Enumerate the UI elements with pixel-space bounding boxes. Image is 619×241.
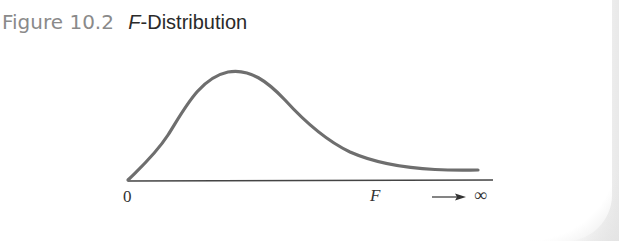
density-curve bbox=[128, 71, 478, 180]
x-axis-line bbox=[128, 180, 493, 181]
origin-label: 0 bbox=[123, 187, 132, 207]
infinity-label: ∞ bbox=[474, 185, 487, 206]
f-distribution-plot bbox=[0, 0, 619, 241]
variable-f-label: F bbox=[370, 186, 380, 206]
